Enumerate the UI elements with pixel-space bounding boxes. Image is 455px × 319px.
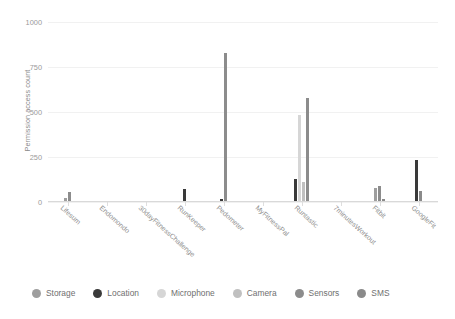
- chart-legend: StorageLocationMicrophoneCameraSensorsSM…: [0, 288, 455, 298]
- x-axis-category-labels: LifesumEndomondo30dayFitnessChallengeRun…: [48, 204, 438, 282]
- bar[interactable]: [294, 179, 297, 202]
- legend-item-sensors[interactable]: Sensors: [295, 288, 340, 298]
- bar[interactable]: [306, 98, 309, 202]
- x-axis-label: 7minutesWorkout: [332, 204, 377, 246]
- permission-access-bar-chart: Permission access count 02505007501000 L…: [0, 0, 455, 319]
- bar-group[interactable]: [204, 22, 243, 202]
- legend-label: Sensors: [309, 288, 340, 298]
- y-tick-label-0: 0: [38, 198, 42, 207]
- plot-area: 02505007501000: [48, 22, 438, 202]
- x-axis-label: MyFitnessPal: [254, 204, 290, 237]
- legend-swatch-icon: [357, 289, 366, 298]
- legend-swatch-icon: [233, 289, 242, 298]
- x-axis-label: Lifesum: [59, 204, 82, 226]
- y-tick-label-1000: 1000: [26, 18, 42, 27]
- x-axis-label: Fitbit: [371, 204, 387, 219]
- x-axis-label: Runtastic: [293, 204, 319, 229]
- legend-item-sms[interactable]: SMS: [357, 288, 389, 298]
- x-axis-label: GoogleFit: [410, 204, 437, 230]
- bar-group[interactable]: [243, 22, 282, 202]
- x-axis-label: Endomondo: [98, 204, 131, 234]
- y-tick-label-750: 750: [30, 63, 42, 72]
- legend-item-camera[interactable]: Camera: [233, 288, 277, 298]
- bar-group[interactable]: [360, 22, 399, 202]
- bar-group[interactable]: [48, 22, 87, 202]
- bar-group[interactable]: [282, 22, 321, 202]
- bar-group[interactable]: [126, 22, 165, 202]
- x-axis-label: RunKeeper: [176, 204, 207, 233]
- legend-swatch-icon: [93, 289, 102, 298]
- legend-label: Camera: [247, 288, 277, 298]
- x-axis-label: Pedometer: [215, 204, 245, 232]
- y-tick-label-250: 250: [30, 153, 42, 162]
- bar-group[interactable]: [399, 22, 438, 202]
- x-axis-baseline: [48, 201, 438, 202]
- legend-label: Storage: [46, 288, 75, 298]
- bar[interactable]: [415, 160, 418, 202]
- legend-item-microphone[interactable]: Microphone: [157, 288, 215, 298]
- bar[interactable]: [298, 115, 301, 202]
- legend-label: Location: [107, 288, 139, 298]
- bar[interactable]: [224, 53, 227, 202]
- legend-label: SMS: [371, 288, 389, 298]
- bar-group[interactable]: [321, 22, 360, 202]
- legend-item-location[interactable]: Location: [93, 288, 139, 298]
- legend-swatch-icon: [295, 289, 304, 298]
- legend-swatch-icon: [32, 289, 41, 298]
- bar[interactable]: [302, 182, 305, 202]
- legend-swatch-icon: [157, 289, 166, 298]
- legend-item-storage[interactable]: Storage: [32, 288, 75, 298]
- legend-label: Microphone: [171, 288, 215, 298]
- y-tick-label-500: 500: [30, 108, 42, 117]
- bar-group[interactable]: [165, 22, 204, 202]
- bar[interactable]: [378, 186, 381, 202]
- bar[interactable]: [374, 188, 377, 202]
- bar-group[interactable]: [87, 22, 126, 202]
